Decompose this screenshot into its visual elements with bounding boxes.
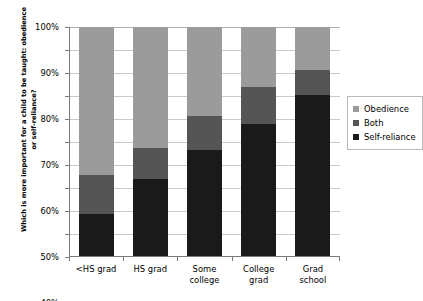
- bar-segment-self-reliance: [187, 150, 222, 257]
- bar-segment-obedience: [133, 27, 168, 148]
- y-axis-label: 70%: [40, 160, 59, 170]
- x-axis-label: <HS grad: [76, 264, 117, 275]
- y-axis-label: 60%: [40, 206, 59, 216]
- x-axis-label: Somecollege: [189, 264, 219, 286]
- bar-segment-obedience: [187, 27, 222, 116]
- bar-segment-self-reliance: [79, 214, 114, 257]
- x-axis-line: [69, 256, 340, 257]
- x-axis-tick: [69, 257, 70, 261]
- bar-segment-both: [295, 70, 330, 95]
- y-axis-label: 50%: [40, 252, 59, 262]
- legend-label: Self-reliance: [364, 132, 416, 142]
- legend-item: Obedience: [353, 102, 416, 116]
- y-axis-label: 90%: [40, 68, 59, 78]
- x-axis-label: Gradschool: [299, 264, 326, 286]
- bar-segment-self-reliance: [295, 95, 330, 257]
- x-axis-tick: [286, 257, 287, 261]
- bar-segment-both: [187, 116, 222, 151]
- x-axis-tick: [339, 257, 340, 261]
- x-axis-tick: [177, 257, 178, 261]
- y-axis-label: 100%: [35, 22, 59, 32]
- bar-segment-self-reliance: [241, 124, 276, 257]
- bar-stack: Gradschool: [295, 27, 330, 257]
- bar-segment-obedience: [241, 27, 276, 87]
- x-axis-tick: [232, 257, 233, 261]
- legend-swatch-icon: [353, 106, 359, 112]
- bar-stack: HS grad: [133, 27, 168, 257]
- y-axis-label: 80%: [40, 114, 59, 124]
- bar-stack: Somecollege: [187, 27, 222, 257]
- chart-legend: ObedienceBothSelf-reliance: [347, 96, 423, 150]
- legend-item: Both: [353, 116, 416, 130]
- x-axis-tick: [123, 257, 124, 261]
- legend-item: Self-reliance: [353, 130, 416, 144]
- x-axis-label: HS grad: [134, 264, 167, 275]
- bar-stack: <HS grad: [79, 27, 114, 257]
- stacked-bar-chart: Which is more important for a child to b…: [0, 0, 423, 301]
- legend-label: Obedience: [364, 104, 409, 114]
- y-axis-title: Which is more important for a child to b…: [20, 5, 39, 235]
- legend-swatch-icon: [353, 134, 359, 140]
- legend-label: Both: [364, 118, 383, 128]
- bar-segment-self-reliance: [133, 179, 168, 257]
- bar-segment-obedience: [295, 27, 330, 70]
- bar-segment-obedience: [79, 27, 114, 175]
- bar-stack: Collegegrad: [241, 27, 276, 257]
- legend-swatch-icon: [353, 120, 359, 126]
- bar-segment-both: [79, 175, 114, 214]
- x-axis-label: Collegegrad: [243, 264, 274, 286]
- plot-area: 0%10%20%30%40%50%60%70%80%90%100% <HS gr…: [69, 27, 340, 257]
- y-axis-line: [69, 27, 70, 258]
- bar-segment-both: [241, 87, 276, 124]
- bar-segment-both: [133, 148, 168, 179]
